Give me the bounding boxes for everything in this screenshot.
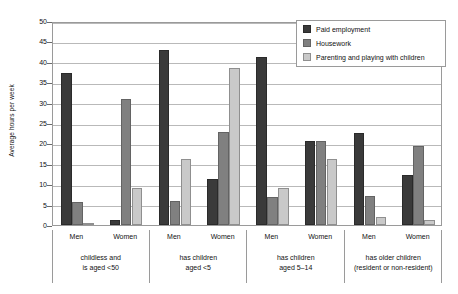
bar xyxy=(256,57,267,225)
bar xyxy=(376,217,387,225)
bar xyxy=(61,73,72,225)
y-axis-tick-label: 30 xyxy=(30,100,47,107)
category-group: MenWomenhas childrenaged 5–14 xyxy=(247,227,345,289)
y-axis-tick-label: 0 xyxy=(30,222,47,229)
bar xyxy=(229,68,240,225)
sex-label-row: MenWomen xyxy=(247,233,345,240)
category-group-label-line2: is aged <50 xyxy=(52,263,150,273)
legend-label-paid-employment: Paid employment xyxy=(316,25,370,34)
sex-label-row: MenWomen xyxy=(52,233,150,240)
category-group-label-line1: has older children xyxy=(345,253,443,263)
bar xyxy=(207,179,218,225)
chart-container: Average hours per week 05101520253035404… xyxy=(0,0,458,294)
y-axis-tick-label: 20 xyxy=(30,140,47,147)
y-axis-tick-label: 5 xyxy=(30,202,47,209)
bar xyxy=(121,99,132,225)
sex-label-row: MenWomen xyxy=(150,233,248,240)
bar xyxy=(267,197,278,225)
category-group-label-line1: childless and xyxy=(52,253,150,263)
sex-label: Women xyxy=(296,233,345,240)
gridline xyxy=(53,104,441,105)
chart-legend: Paid employment Housework Parenting and … xyxy=(296,20,446,67)
y-axis-tick-label: 15 xyxy=(30,161,47,168)
bar xyxy=(83,223,94,225)
category-group-label: has childrenaged 5–14 xyxy=(247,253,345,272)
y-axis-tick-label: 35 xyxy=(30,79,47,86)
bar xyxy=(402,175,413,225)
legend-item-parenting: Parenting and playing with children xyxy=(303,53,441,62)
category-group-label-line1: has children xyxy=(247,253,345,263)
bar xyxy=(354,133,365,225)
bar xyxy=(72,202,83,225)
legend-label-housework: Housework xyxy=(316,39,351,48)
legend-swatch-parenting xyxy=(303,53,311,61)
category-group-label: has older children(resident or non-resid… xyxy=(345,253,443,272)
category-axis: MenWomenchildless andis aged <50MenWomen… xyxy=(52,227,442,289)
legend-label-parenting: Parenting and playing with children xyxy=(316,53,425,62)
category-group-label: childless andis aged <50 xyxy=(52,253,150,272)
bar xyxy=(413,146,424,225)
bar xyxy=(132,188,143,225)
y-axis-tick-label: 45 xyxy=(30,38,47,45)
legend-item-housework: Housework xyxy=(303,39,441,48)
category-group-label-line2: aged 5–14 xyxy=(247,263,345,273)
sex-label: Men xyxy=(247,233,296,240)
bar xyxy=(327,159,338,225)
bar xyxy=(365,196,376,225)
bar xyxy=(316,141,327,225)
gridline xyxy=(53,145,441,146)
bar xyxy=(305,141,316,225)
bar xyxy=(424,220,435,225)
category-group: MenWomenhas childrenaged <5 xyxy=(150,227,248,289)
y-axis-tick-label: 10 xyxy=(30,181,47,188)
y-axis-title: Average hours per week xyxy=(8,51,15,191)
sex-label: Women xyxy=(198,233,247,240)
category-group-label: has childrenaged <5 xyxy=(150,253,248,272)
bar xyxy=(110,220,121,225)
category-group: MenWomenchildless andis aged <50 xyxy=(52,227,150,289)
sex-label: Women xyxy=(101,233,150,240)
legend-swatch-paid-employment xyxy=(303,25,311,33)
gridline xyxy=(53,206,441,207)
legend-item-paid-employment: Paid employment xyxy=(303,25,441,34)
category-group-label-line2: aged <5 xyxy=(150,263,248,273)
gridline xyxy=(53,186,441,187)
category-group-label-line1: has children xyxy=(150,253,248,263)
sex-label: Men xyxy=(345,233,394,240)
bar xyxy=(278,188,289,225)
y-axis-tick-label: 25 xyxy=(30,120,47,127)
bar xyxy=(181,159,192,225)
y-axis-tick-label: 50 xyxy=(30,18,47,25)
legend-swatch-housework xyxy=(303,39,311,47)
gridline xyxy=(53,84,441,85)
category-group-label-line2: (resident or non-resident) xyxy=(345,263,443,273)
bar xyxy=(218,132,229,225)
sex-label: Men xyxy=(52,233,101,240)
gridline xyxy=(53,125,441,126)
bar xyxy=(170,201,181,225)
y-axis-tick-label: 40 xyxy=(30,59,47,66)
category-group: MenWomenhas older children(resident or n… xyxy=(345,227,443,289)
sex-label-row: MenWomen xyxy=(345,233,443,240)
sex-label: Men xyxy=(150,233,199,240)
bar xyxy=(159,50,170,225)
gridline xyxy=(53,165,441,166)
sex-label: Women xyxy=(393,233,442,240)
